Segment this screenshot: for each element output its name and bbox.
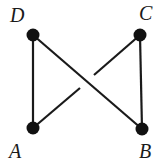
label-d: D bbox=[9, 4, 25, 26]
node-c bbox=[134, 29, 147, 42]
label-b: B bbox=[139, 140, 151, 162]
edge-c-b bbox=[140, 35, 142, 129]
knot-diagram: D C A B bbox=[0, 0, 160, 162]
label-a: A bbox=[7, 140, 22, 162]
label-c: C bbox=[139, 2, 153, 24]
node-a bbox=[27, 122, 40, 135]
edge-c-a-upper-segment bbox=[94, 35, 140, 75]
node-b bbox=[136, 123, 149, 136]
node-d bbox=[27, 29, 40, 42]
edge-c-a-lower-segment bbox=[33, 88, 80, 128]
